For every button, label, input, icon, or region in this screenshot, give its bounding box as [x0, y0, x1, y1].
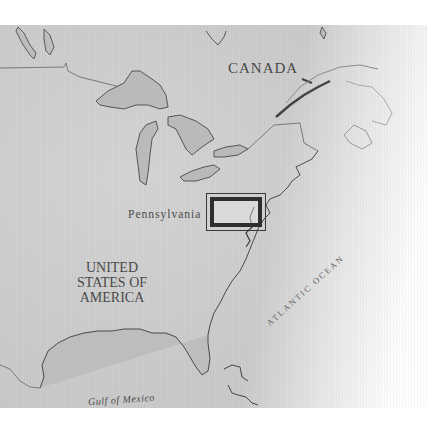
arctic-island	[44, 29, 54, 55]
arctic-island	[320, 27, 326, 39]
arctic-island	[16, 27, 36, 59]
gulf-coast	[40, 329, 210, 388]
lake-erie	[180, 165, 220, 181]
us-east-coast	[208, 151, 318, 335]
lake-ontario	[214, 145, 248, 157]
label-canada: CANADA	[228, 61, 298, 76]
label-usa-line3: AMERICA	[70, 290, 154, 305]
cuba	[228, 385, 258, 405]
label-usa: UNITED STATES OF AMERICA	[70, 260, 154, 305]
canada-east-coast	[346, 81, 392, 125]
map-panel: CANADA Pennsylvania UNITED STATES OF AME…	[0, 25, 427, 408]
lake-michigan	[136, 121, 158, 185]
bahamas	[224, 365, 248, 381]
lake-superior	[96, 71, 168, 109]
nova-scotia	[344, 125, 372, 149]
label-usa-line2: STATES OF	[70, 275, 154, 290]
canada-us-border-east	[248, 123, 318, 151]
canada-us-border	[0, 63, 120, 87]
label-pennsylvania: Pennsylvania	[128, 209, 201, 221]
lake-huron	[168, 115, 214, 155]
arctic-island	[206, 31, 226, 45]
label-usa-line1: UNITED	[70, 260, 154, 275]
st-lawrence-river	[276, 81, 330, 117]
texas-mexico-border	[0, 365, 40, 388]
locator-box-inner	[210, 197, 262, 227]
locator-box	[206, 193, 266, 231]
